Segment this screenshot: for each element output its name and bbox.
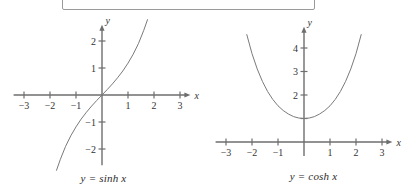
x-axis-name: x [395,137,401,148]
y-axis-arrow-icon [301,27,306,33]
caption-sinh: y = sinh x [2,172,205,184]
x-tick-label: 3 [178,100,183,111]
plot-cosh: −3−2−1123234xy [208,14,419,174]
y-tick-label: 2 [91,36,96,47]
x-tick-label: −2 [247,147,258,158]
y-tick-label: −2 [85,144,96,155]
y-tick-label: 4 [293,43,298,54]
y-tick-label: −1 [85,117,96,128]
x-tick-label: 1 [328,147,333,158]
x-tick-label: −3 [221,147,232,158]
x-tick-label: 1 [126,100,131,111]
y-axis-name: y [105,15,111,26]
y-tick-label: 1 [91,63,96,74]
y-axis-name: y [307,17,313,28]
figure-root: −3−2−1123−2−112xy y = sinh x −3−2−112323… [0,0,419,195]
chart-panel-sinh: −3−2−1123−2−112xy y = sinh x [2,14,205,195]
chart-panel-cosh: −3−2−1123234xy y = cosh x [208,14,419,195]
x-tick-label: −1 [71,100,82,111]
axes-group: −3−2−1123234xy [216,17,402,158]
x-tick-label: −1 [273,147,284,158]
x-tick-label: 2 [354,147,359,158]
y-tick-label: 2 [293,90,298,101]
clipped-caption-box [62,0,315,10]
caption-cosh: y = cosh x [208,170,419,182]
x-axis-arrow-icon [184,92,190,97]
x-tick-label: −2 [45,100,56,111]
y-tick-label: 3 [293,66,298,77]
x-tick-label: −3 [19,100,30,111]
y-axis-arrow-icon [99,25,104,31]
x-axis-name: x [193,90,199,101]
x-axis-arrow-icon [386,139,392,144]
x-tick-label: 2 [152,100,157,111]
plot-sinh: −3−2−1123−2−112xy [2,14,205,174]
x-tick-label: 3 [380,147,385,158]
